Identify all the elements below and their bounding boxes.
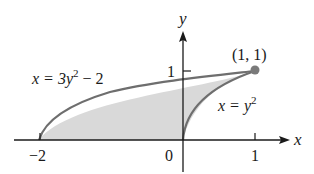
region-diagram: y x 1 −2 0 1 (1, 1) x = 3y2 − 2 x = y2	[0, 0, 314, 174]
right-curve-label: x = y2	[217, 94, 257, 115]
x-tick-label-0: 0	[165, 147, 173, 164]
point-label: (1, 1)	[232, 46, 267, 64]
point-1-1	[251, 66, 260, 75]
y-tick-label-1: 1	[167, 63, 175, 80]
x-tick-label-1: 1	[251, 147, 259, 164]
x-tick-label-neg2: −2	[29, 147, 46, 164]
y-axis-label: y	[177, 9, 187, 28]
right-curve-label-exponent: 2	[251, 94, 257, 106]
left-curve-label-rhs: − 2	[79, 70, 104, 87]
x-axis-label: x	[293, 130, 302, 149]
left-curve-label: x = 3y2 − 2	[31, 67, 104, 88]
right-curve-label-lhs: x = y	[217, 97, 252, 115]
left-curve-label-lhs: x = 3y	[31, 70, 74, 88]
